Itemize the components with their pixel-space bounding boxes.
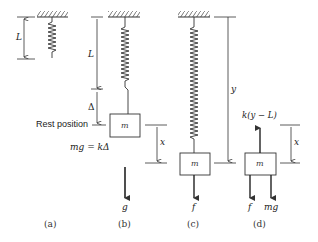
- caption-a: (a): [44, 220, 56, 229]
- ceiling-hatch-b: [108, 11, 140, 17]
- panel-a: [17, 11, 68, 59]
- spring-c: [190, 17, 198, 153]
- panel-d: [245, 125, 300, 198]
- label-mg-d: mg: [264, 203, 278, 212]
- spring-b: [121, 17, 129, 114]
- ceiling-hatch-a: [37, 11, 68, 17]
- panel-c: [178, 11, 236, 198]
- label-x-d: x: [294, 138, 299, 147]
- spring-a: [48, 17, 56, 58]
- caption-d: (d): [253, 220, 266, 229]
- label-L-b: L: [88, 50, 94, 59]
- rest-position-label: Rest position: [36, 120, 88, 129]
- label-f-c: f: [192, 203, 195, 212]
- label-f-d: f: [248, 203, 251, 212]
- mass-label-d: m: [256, 160, 264, 168]
- caption-c: (c): [187, 220, 199, 229]
- label-y: y: [231, 85, 236, 94]
- panel-b: [91, 11, 167, 198]
- label-L-a: L: [16, 33, 22, 42]
- label-delta: Δ: [88, 103, 95, 112]
- caption-b: (b): [118, 220, 131, 229]
- label-x-b: x: [160, 138, 165, 147]
- label-spring-force: k(y − L): [242, 111, 277, 120]
- ceiling-hatch-c: [178, 11, 210, 17]
- mass-label-c: m: [191, 160, 199, 168]
- label-g: g: [122, 203, 128, 212]
- mass-label-b: m: [121, 122, 129, 130]
- equilibrium-equation: mg = kΔ: [70, 143, 110, 152]
